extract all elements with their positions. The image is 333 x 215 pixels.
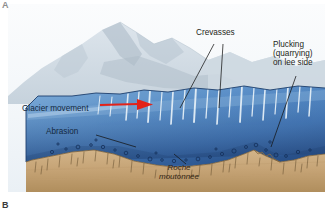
label-roche-line1: Roche (148, 163, 210, 172)
panel-letter-a: A (2, 1, 9, 10)
label-abrasion: Abrasion (46, 127, 78, 136)
label-plucking-line3: on lee side (273, 58, 331, 67)
panel-letter-b: B (2, 201, 9, 210)
arrow-shaft (100, 104, 138, 105)
label-roche-line2: moutonnée (148, 172, 210, 181)
label-plucking-line2: (quarrying) (273, 49, 331, 58)
label-plucking-line1: Plucking (273, 40, 331, 49)
label-plucking: Plucking (quarrying) on lee side (273, 40, 331, 68)
figure-canvas: A B Crevasses Plucking (quarrying) on le… (0, 0, 333, 215)
label-glacier-movement: Glacier movement (22, 104, 88, 113)
label-roche-moutonnee: Roche moutonnée (148, 163, 210, 181)
label-crevasses: Crevasses (196, 28, 235, 37)
